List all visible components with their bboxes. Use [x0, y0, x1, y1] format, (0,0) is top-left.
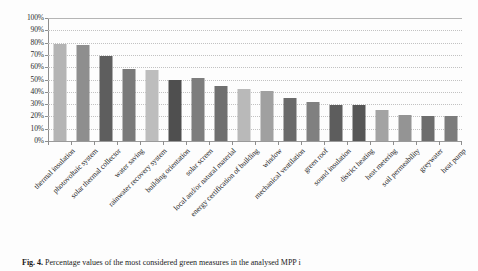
bar-slot	[255, 18, 278, 141]
bar-slot	[163, 18, 186, 141]
plot-region: 100%90%80%70%60%50%40%30%20%10%0%	[48, 18, 462, 141]
bar-slot	[186, 18, 209, 141]
bar	[329, 105, 342, 141]
bar	[214, 86, 227, 141]
bar	[421, 116, 434, 141]
bar	[260, 91, 273, 141]
bar-slot	[393, 18, 416, 141]
bar	[99, 56, 112, 141]
y-axis-tick-label: 100%	[27, 14, 44, 22]
bar-slot	[416, 18, 439, 141]
bar-slot	[209, 18, 232, 141]
caption-label: Fig. 4.	[22, 258, 43, 267]
bar-slot	[301, 18, 324, 141]
bar	[145, 70, 158, 141]
bar	[168, 80, 181, 141]
y-axis-tick-label: 50%	[31, 76, 44, 84]
bars-group	[48, 18, 462, 141]
bar	[375, 110, 388, 141]
bar-slot	[232, 18, 255, 141]
caption-text: Percentage values of the most considered…	[45, 258, 301, 267]
bar	[76, 45, 89, 141]
y-axis-tick-label: 70%	[31, 51, 44, 59]
bar	[352, 105, 365, 141]
chart-area: 100%90%80%70%60%50%40%30%20%10%0%	[0, 0, 478, 150]
bar-slot	[370, 18, 393, 141]
bar	[444, 116, 457, 141]
x-axis-category-labels: thermal insulationphotovoltaic systemsol…	[48, 145, 462, 250]
bar-slot	[71, 18, 94, 141]
y-axis-tick-label: 30%	[31, 100, 44, 108]
bar-slot	[347, 18, 370, 141]
bar	[237, 89, 250, 141]
bar-slot	[117, 18, 140, 141]
y-axis-tick-label: 0%	[34, 137, 44, 145]
bar	[306, 102, 319, 141]
bar	[191, 78, 204, 141]
bar-slot	[48, 18, 71, 141]
bar-slot	[324, 18, 347, 141]
y-axis-tick-label: 60%	[31, 63, 44, 71]
bar-slot	[278, 18, 301, 141]
y-axis-tick-label: 80%	[31, 39, 44, 47]
figure-container: 100%90%80%70%60%50%40%30%20%10%0% therma…	[0, 0, 478, 271]
y-axis-tick-label: 40%	[31, 88, 44, 96]
bar	[53, 44, 66, 141]
figure-caption: Fig. 4. Percentage values of the most co…	[22, 258, 462, 268]
y-axis-tick-label: 20%	[31, 113, 44, 121]
y-axis-tick-label: 90%	[31, 27, 44, 35]
bar-slot	[439, 18, 462, 141]
bar	[283, 98, 296, 141]
bar-slot	[94, 18, 117, 141]
bar	[122, 69, 135, 141]
bar-slot	[140, 18, 163, 141]
y-axis-tick-label: 10%	[31, 125, 44, 133]
bar	[398, 115, 411, 141]
